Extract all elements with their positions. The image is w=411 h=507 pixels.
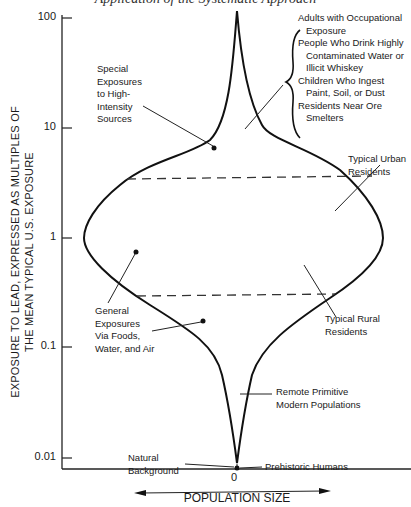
y-tick-100: 100 xyxy=(6,10,56,22)
y-axis-label-line2: THE MEAN TYPICAL U.S. EXPOSURE xyxy=(22,52,36,452)
y-ticks xyxy=(62,18,72,458)
special-point xyxy=(212,146,217,151)
annotation-urban: Typical Urban Residents xyxy=(348,153,406,178)
annotation-general-exposures: General Exposures Via Foods, Water, and … xyxy=(95,305,154,355)
annotation-natural-background: Natural Background xyxy=(128,452,179,477)
prehistoric-leader xyxy=(240,467,262,468)
special-leader xyxy=(143,106,213,146)
natural-leader xyxy=(185,464,234,467)
general-point-lower xyxy=(201,319,206,324)
rural-dashed-line xyxy=(137,294,335,296)
annotation-remote-populations: Remote Primitive Modern Populations xyxy=(276,386,361,411)
y-axis-label-line1: EXPOSURE TO LEAD, EXPRESSED AS MULTIPLES… xyxy=(8,52,22,452)
general-leader-lower xyxy=(152,322,201,331)
rural-leader xyxy=(304,265,336,317)
x-tick-0: 0 xyxy=(231,471,237,483)
occupational-leader xyxy=(245,85,283,129)
urban-dashed-line xyxy=(127,176,372,179)
annotation-occupational: Adults with Occupational Exposure People… xyxy=(298,12,404,125)
general-point-upper xyxy=(134,250,139,255)
x-axis-label: POPULATION SIZE xyxy=(0,491,411,505)
annotation-special-exposures: Special Exposures to High- Intensity Sou… xyxy=(97,63,142,126)
y-axis-label: EXPOSURE TO LEAD, EXPRESSED AS MULTIPLES… xyxy=(8,52,36,452)
annotation-rural: Typical Rural Residents xyxy=(325,313,380,338)
annotation-prehistoric-humans: Prehistoric Humans xyxy=(265,461,348,474)
origin-point xyxy=(235,466,240,471)
